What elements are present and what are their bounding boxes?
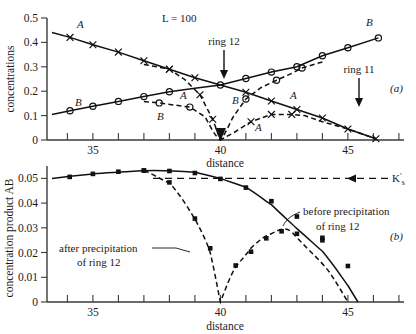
- annotation-after-line2: of ring 12: [77, 256, 120, 268]
- y-tick-label: 0.02: [18, 247, 38, 259]
- y-tick-label: 0.03: [18, 222, 38, 234]
- x-tick-label: 40: [215, 144, 227, 156]
- curve-label-a-inner-right: A: [254, 121, 262, 133]
- curve-label-b-left: B: [75, 96, 82, 108]
- curve-label-b-inner-right: B: [232, 94, 239, 106]
- annotation-before-line1: before precipitation: [303, 205, 390, 217]
- annotation-L: L = 100: [162, 12, 197, 24]
- ks-arrowhead: [347, 174, 356, 182]
- panel-label-b: (b): [390, 230, 403, 243]
- curve-label-b-inner-left: B: [157, 110, 164, 122]
- y-ticks-b: [41, 178, 47, 302]
- x-tick-label: 45: [342, 144, 354, 156]
- y-tick-label: 0.5: [24, 12, 39, 24]
- panel-label-a: (a): [390, 82, 403, 95]
- ks-label: K′s: [392, 172, 405, 187]
- x-tick-label: 40: [215, 306, 227, 318]
- ring11-arrow-a: [355, 78, 363, 107]
- chart-b-svg: 0 0.01 0.02 0.03 0.04 0.05 35 40: [0, 160, 416, 334]
- y-tick-labels-a: 0 0.1 0.2 0.3 0.4 0.5: [24, 12, 39, 146]
- leader-after: [152, 248, 190, 252]
- y-tick-label: 0.05: [18, 172, 38, 184]
- y-tick-label: 0.4: [24, 36, 39, 48]
- curve-label-a-right: A: [289, 89, 297, 101]
- curve-label-a-left: A: [76, 18, 84, 30]
- x-tick-labels-a: 35 40 45: [87, 144, 354, 156]
- x-ticks-a: [67, 133, 399, 140]
- annotation-ring12: ring 12: [208, 35, 239, 47]
- x-tick-label: 35: [87, 144, 99, 156]
- y-axis-title-a: concentrations: [4, 45, 16, 113]
- panel-b-concentration-product: 0 0.01 0.02 0.03 0.04 0.05 35 40: [0, 160, 416, 334]
- x-tick-label: 45: [342, 306, 354, 318]
- panel-a-concentrations: 0 0.1 0.2 0.3 0.4 0.5 35 40: [0, 0, 416, 170]
- annotation-before-line2: of ring 12: [316, 220, 359, 232]
- x-tick-label: 35: [87, 306, 99, 318]
- series-b-before-line: [52, 38, 378, 115]
- y-tick-label: 0: [32, 296, 38, 308]
- x-ticks-b: [67, 295, 399, 302]
- annotation-after-line1: after precipitation: [59, 242, 138, 254]
- y-tick-label: 0.04: [18, 197, 38, 209]
- y-tick-label: 0.2: [24, 85, 39, 97]
- curve-label-b-right: B: [366, 16, 373, 28]
- y-axis-title-b: concentration product AB: [3, 178, 16, 297]
- chart-a-svg: 0 0.1 0.2 0.3 0.4 0.5 35 40: [0, 0, 416, 170]
- series-before-line: [52, 171, 358, 302]
- y-ticks-a: [41, 18, 47, 140]
- y-tick-labels-b: 0 0.01 0.02 0.03 0.04 0.05: [18, 172, 38, 308]
- x-tick-labels-b: 35 40 45: [87, 306, 354, 318]
- series-after-line: [144, 171, 348, 302]
- x-axis-title-b: distance: [206, 320, 244, 332]
- y-tick-label: 0.1: [24, 110, 39, 122]
- y-tick-label: 0.01: [18, 271, 38, 283]
- annotation-ring11: ring 11: [343, 63, 374, 75]
- curve-label-a-inner-left: A: [179, 89, 187, 101]
- ring12-arrow-a: [220, 50, 228, 79]
- y-tick-label: 0: [32, 134, 38, 146]
- y-tick-label: 0.3: [24, 61, 39, 73]
